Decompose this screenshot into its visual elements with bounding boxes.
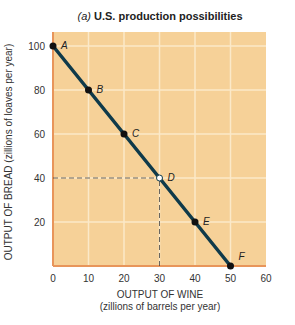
x-tick-label: 10 (83, 273, 95, 284)
y-tick-label: 100 (28, 41, 45, 52)
x-tick-label: 40 (189, 273, 201, 284)
point-label: B (97, 84, 104, 95)
ppf-chart: (a) U.S. production possibilities ABCDEF… (0, 0, 295, 325)
x-axis-label: OUTPUT OF WINE (117, 289, 204, 300)
y-tick-label: 20 (34, 217, 46, 228)
y-tick-label: 40 (34, 173, 46, 184)
x-axis-sublabel: (zillions of barrels per year) (100, 301, 221, 312)
data-point (121, 131, 128, 138)
data-point (50, 43, 57, 50)
chart-title: (a) U.S. production possibilities (77, 10, 242, 22)
x-tick-label: 0 (50, 273, 56, 284)
x-tick-label: 20 (118, 273, 130, 284)
point-label: A (60, 40, 68, 51)
x-tick-label: 60 (260, 273, 272, 284)
data-point (192, 219, 199, 226)
point-label: F (239, 251, 246, 262)
x-tick-label: 30 (154, 273, 166, 284)
data-point (227, 263, 234, 270)
y-tick-label: 60 (34, 129, 46, 140)
data-point-open (157, 175, 163, 181)
point-label: E (203, 216, 210, 227)
point-label: C (132, 128, 140, 139)
data-point (85, 87, 92, 94)
point-label: D (168, 172, 175, 183)
y-axis-label: OUTPUT OF BREAD (zillions of loaves per … (3, 44, 14, 261)
plot-area: ABCDEF010203040506020406080100 (28, 32, 272, 284)
y-tick-label: 80 (34, 85, 46, 96)
x-tick-label: 50 (225, 273, 237, 284)
